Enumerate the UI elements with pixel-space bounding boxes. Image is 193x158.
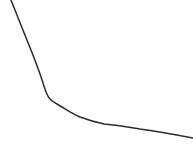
plot-canvas	[0, 0, 193, 158]
plot-background	[0, 0, 193, 158]
figure-root	[0, 0, 193, 158]
